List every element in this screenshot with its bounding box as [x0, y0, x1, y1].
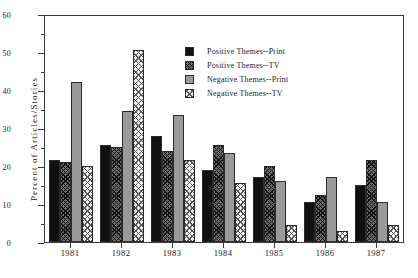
bar [355, 185, 366, 242]
bar [49, 160, 60, 242]
x-axis-tick-label: 1985 [265, 248, 284, 258]
x-axis-tick-mark [376, 243, 377, 248]
x-axis-tick-mark [172, 243, 173, 248]
bar [315, 195, 326, 243]
bar-group [304, 16, 348, 242]
y-axis-tick-label: 10 [2, 201, 11, 210]
x-axis-tick-mark [223, 243, 224, 248]
y-axis-tick-mark [38, 167, 44, 168]
bar [388, 225, 399, 242]
y-axis-minor-tick [41, 148, 44, 149]
legend-item-label: Negative Themes--TV [207, 89, 283, 98]
legend-swatch-icon [185, 61, 194, 70]
x-axis-tick-label: 1983 [163, 248, 182, 258]
legend-swatch-icon [185, 75, 194, 84]
bar-chart: Percent of Articles/Stories Positive The… [0, 0, 418, 278]
x-axis-tick-label: 1984 [214, 248, 233, 258]
y-axis-tick-label: 40 [2, 87, 11, 96]
legend-item-label: Negative Themes--Print [207, 75, 288, 84]
y-axis-tick-label: 30 [2, 125, 11, 134]
legend-item: Positive Themes--Print [185, 44, 288, 58]
bar [184, 160, 195, 242]
bar [366, 160, 377, 242]
bar [71, 82, 82, 242]
y-axis-minor-tick [41, 110, 44, 111]
y-axis-label: Percent of Articles/Stories [29, 59, 39, 219]
bar [224, 153, 235, 242]
legend-swatch-icon [185, 47, 194, 56]
legend-item: Negative Themes--Print [185, 72, 288, 86]
bar [213, 145, 224, 242]
y-axis-tick-label: 50 [2, 49, 11, 58]
legend-item-label: Positive Themes--Print [207, 47, 285, 56]
legend-swatch-icon [185, 89, 194, 98]
bar [253, 177, 264, 242]
x-axis-tick-label: 1981 [61, 248, 80, 258]
bar [151, 136, 162, 242]
legend-item: Negative Themes--TV [185, 86, 288, 100]
bar-group [355, 16, 399, 242]
y-axis-tick-label: 0 [7, 239, 11, 248]
y-axis-tick-mark [38, 129, 44, 130]
bar [304, 202, 315, 242]
bar [82, 166, 93, 242]
bar [111, 147, 122, 242]
y-axis-minor-tick [41, 34, 44, 35]
x-axis-tick-mark [274, 243, 275, 248]
x-axis-tick-mark [325, 243, 326, 248]
bar [377, 202, 388, 242]
bar [326, 177, 337, 242]
bar [162, 151, 173, 242]
x-axis-tick-mark [70, 243, 71, 248]
legend-item: Positive Themes--TV [185, 58, 288, 72]
legend-item-label: Positive Themes--TV [207, 61, 280, 70]
x-axis-tick-label: 1982 [112, 248, 131, 258]
bar-group [49, 16, 93, 242]
y-axis-tick-mark [38, 243, 44, 244]
bar [337, 231, 348, 242]
bar [235, 183, 246, 242]
y-axis-tick-label: 20 [2, 163, 11, 172]
y-axis-tick-mark [38, 205, 44, 206]
y-axis-tick-mark [38, 91, 44, 92]
bar [264, 166, 275, 242]
bar [100, 145, 111, 242]
bar-group [100, 16, 144, 242]
x-axis-tick-label: 1986 [316, 248, 335, 258]
y-axis-tick-mark [38, 15, 44, 16]
bar [275, 181, 286, 242]
y-axis-minor-tick [41, 186, 44, 187]
bar [133, 50, 144, 242]
y-axis-tick-mark [38, 53, 44, 54]
chart-legend: Positive Themes--PrintPositive Themes--T… [185, 44, 288, 100]
y-axis-tick-label: 60 [2, 11, 11, 20]
y-axis-minor-tick [41, 72, 44, 73]
y-axis-minor-tick [41, 224, 44, 225]
x-axis-tick-mark [121, 243, 122, 248]
x-axis-tick-label: 1987 [367, 248, 386, 258]
bar [286, 225, 297, 242]
bar [202, 170, 213, 242]
bar [60, 162, 71, 242]
bar [173, 115, 184, 242]
bar [122, 111, 133, 242]
